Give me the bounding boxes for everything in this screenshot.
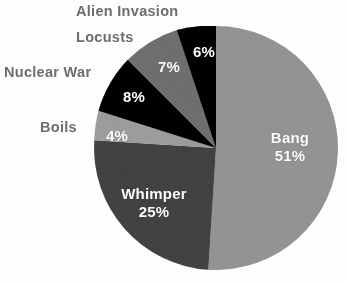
slice-value-boils: 4%: [106, 127, 128, 145]
category-label-locusts: Locusts: [76, 29, 134, 45]
slice-label-whimper-value: 25%: [104, 203, 204, 221]
slice-label-bang: Bang 51%: [252, 129, 328, 164]
slice-label-bang-name: Bang: [271, 129, 309, 146]
category-label-nuclear-war: Nuclear War: [4, 64, 91, 80]
slice-label-whimper: Whimper 25%: [104, 185, 204, 220]
pie-chart-figure: Bang 51% Whimper 25% 4% 8% 7% 6% Alien I…: [0, 0, 347, 284]
slice-value-nuclear-war: 8%: [123, 88, 145, 106]
category-label-boils: Boils: [40, 119, 77, 135]
slice-label-bang-value: 51%: [252, 147, 328, 165]
slice-value-locusts: 7%: [158, 58, 180, 76]
slice-label-whimper-name: Whimper: [121, 185, 187, 202]
slice-value-alien-invasion: 6%: [193, 43, 215, 61]
category-label-alien-invasion: Alien Invasion: [76, 3, 179, 19]
